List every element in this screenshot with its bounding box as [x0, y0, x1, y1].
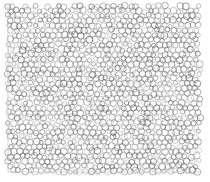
bubble-packing-figure — [0, 0, 210, 182]
image-canvas — [0, 0, 210, 182]
